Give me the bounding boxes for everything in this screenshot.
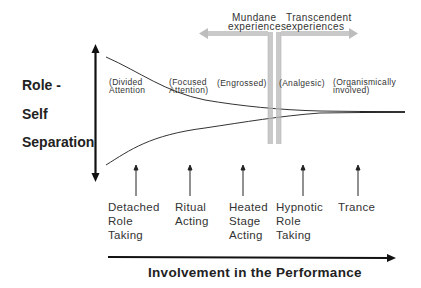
transcendent-label-2: experiences (286, 22, 344, 31)
x-axis-arrow (108, 254, 396, 262)
y-axis-double-arrow (92, 44, 100, 182)
y-axis-label-line-2: Self (22, 106, 48, 122)
phase-analgesic: (Analgesic) (279, 79, 325, 87)
phase-focused-2: Attention) (169, 86, 208, 94)
y-axis-label-line-3: Separation (22, 134, 94, 150)
phase-organismically-2: involved) (333, 86, 370, 94)
y-axis-label-line-1: Role - (22, 77, 61, 93)
mundane-label-2: experiences (228, 22, 286, 31)
stage-hypnotic-role-taking: Hypnotic Role Taking (276, 200, 323, 242)
stage-ritual-acting: Ritual Acting (175, 200, 209, 228)
lower-curve (106, 112, 405, 165)
phase-divided-2: Attention (109, 86, 145, 94)
stage-arrows (134, 165, 360, 196)
stage-trance: Trance (338, 200, 375, 214)
phase-engrossed: (Engrossed) (217, 79, 267, 87)
x-axis-label: Involvement in the Performance (148, 265, 362, 280)
stage-heated-stage-acting: Heated Stage Acting (229, 200, 268, 242)
stage-detached-role-taking: Detached Role Taking (108, 200, 160, 242)
